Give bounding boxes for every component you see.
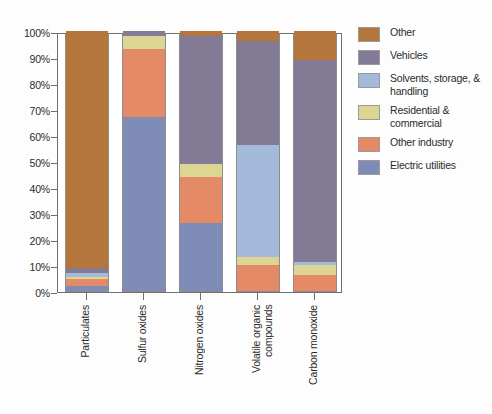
bar-segment bbox=[237, 31, 279, 41]
bar-segment bbox=[180, 36, 222, 163]
bar-segment bbox=[180, 177, 222, 224]
bar-column bbox=[293, 34, 337, 292]
y-tick-mark bbox=[51, 293, 57, 294]
y-tick-label: 10% bbox=[30, 261, 50, 273]
y-tick-label: 90% bbox=[30, 53, 50, 65]
plot-area bbox=[57, 33, 342, 293]
legend-label: Vehicles bbox=[390, 49, 428, 62]
bar-segment bbox=[237, 41, 279, 145]
bar-segment bbox=[66, 273, 108, 277]
y-tick-mark bbox=[51, 163, 57, 164]
legend-label: Other bbox=[390, 26, 415, 39]
legend-label: Electric utilities bbox=[390, 159, 456, 172]
chart-legend: OtherVehiclesSolvents, storage, & handli… bbox=[358, 26, 490, 182]
bar-column bbox=[236, 34, 280, 292]
y-tick-mark bbox=[51, 267, 57, 268]
bar-segment bbox=[123, 31, 165, 36]
x-tick-mark bbox=[200, 293, 201, 300]
x-tick-mark bbox=[314, 293, 315, 300]
bar-column bbox=[122, 34, 166, 292]
bar-segment bbox=[237, 257, 279, 265]
bar-segment bbox=[66, 268, 108, 273]
bar-segment bbox=[66, 277, 108, 280]
legend-color-swatch bbox=[358, 27, 380, 42]
legend-item: Vehicles bbox=[358, 49, 490, 65]
legend-item: Other bbox=[358, 26, 490, 42]
y-tick-mark bbox=[51, 85, 57, 86]
legend-color-swatch bbox=[358, 105, 380, 120]
x-tick-mark bbox=[86, 293, 87, 300]
bar-segment bbox=[123, 49, 165, 117]
bar-segment bbox=[180, 223, 222, 291]
legend-label: Other industry bbox=[390, 136, 453, 149]
legend-label: Residential & commercial bbox=[390, 104, 490, 129]
x-axis-label: Nitrogen oxides bbox=[193, 305, 205, 375]
legend-item: Electric utilities bbox=[358, 159, 490, 175]
bar-segment bbox=[294, 31, 336, 60]
x-tick-mark bbox=[143, 293, 144, 300]
y-tick-mark bbox=[51, 111, 57, 112]
bar-column bbox=[179, 34, 223, 292]
legend-item: Residential & commercial bbox=[358, 104, 490, 129]
x-axis-label: Volatile organic compounds bbox=[250, 305, 274, 373]
y-tick-mark bbox=[51, 241, 57, 242]
y-tick-mark bbox=[51, 215, 57, 216]
legend-color-swatch bbox=[358, 160, 380, 175]
y-tick-mark bbox=[51, 59, 57, 60]
legend-label: Solvents, storage, & handling bbox=[390, 72, 490, 97]
x-axis-label: Particulates bbox=[79, 305, 91, 357]
bar-segment bbox=[66, 31, 108, 268]
bar-segment bbox=[294, 265, 336, 275]
y-tick-label: 80% bbox=[30, 79, 50, 91]
y-tick-mark bbox=[51, 137, 57, 138]
y-tick-label: 60% bbox=[30, 131, 50, 143]
bar-column bbox=[65, 34, 109, 292]
y-tick-label: 40% bbox=[30, 183, 50, 195]
bar-segment bbox=[294, 275, 336, 291]
y-tick-mark bbox=[51, 189, 57, 190]
bar-segment bbox=[237, 145, 279, 257]
bar-segment bbox=[294, 60, 336, 263]
bar-segment bbox=[294, 262, 336, 265]
y-tick-label: 20% bbox=[30, 235, 50, 247]
y-tick-mark bbox=[51, 33, 57, 34]
legend-color-swatch bbox=[358, 73, 380, 88]
y-axis: 100%90%80%70%60%50%40%30%20%10%0% bbox=[0, 33, 50, 293]
x-axis-label: Sulfur oxides bbox=[136, 305, 148, 363]
y-tick-label: 0% bbox=[35, 287, 50, 299]
y-tick-label: 70% bbox=[30, 105, 50, 117]
legend-item: Other industry bbox=[358, 136, 490, 152]
bar-segment bbox=[123, 117, 165, 291]
y-tick-label: 50% bbox=[30, 157, 50, 169]
x-axis-label: Carbon monoxide bbox=[307, 305, 319, 385]
bar-segment bbox=[66, 286, 108, 291]
legend-color-swatch bbox=[358, 50, 380, 65]
bar-segment bbox=[237, 265, 279, 291]
stacked-bar-chart-figure: 100%90%80%70%60%50%40%30%20%10%0% OtherV… bbox=[0, 0, 492, 414]
bar-segment bbox=[180, 164, 222, 177]
bar-segment bbox=[123, 36, 165, 49]
legend-color-swatch bbox=[358, 137, 380, 152]
legend-item: Solvents, storage, & handling bbox=[358, 72, 490, 97]
y-tick-label: 30% bbox=[30, 209, 50, 221]
bar-segment bbox=[180, 31, 222, 36]
x-tick-mark bbox=[257, 293, 258, 300]
y-tick-label: 100% bbox=[24, 27, 50, 39]
bar-segment bbox=[66, 279, 108, 286]
